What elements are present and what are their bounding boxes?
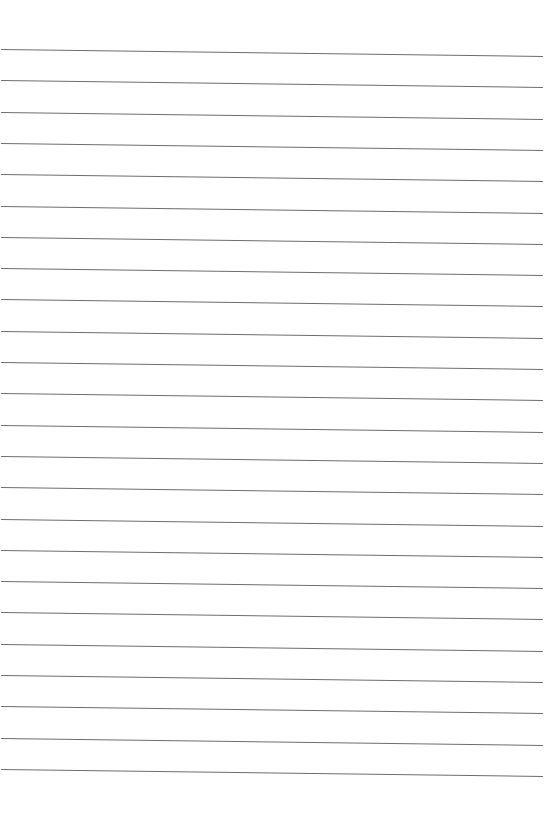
ruled-line [1,299,543,307]
ruled-line [1,706,543,714]
lined-paper-page [0,0,544,834]
ruled-line [1,456,543,464]
ruled-line [1,675,543,683]
ruled-line [1,581,543,589]
ruled-line [1,393,543,401]
ruled-line [1,112,543,120]
ruled-line [1,80,543,88]
ruled-line [1,206,543,214]
ruled-line [1,143,543,151]
ruled-line [1,174,543,182]
ruled-line [1,268,543,276]
ruled-line [1,612,543,620]
ruled-line [1,49,543,57]
ruled-line [1,237,543,245]
ruled-line [1,738,543,746]
ruled-line [1,331,543,339]
ruled-line [1,550,543,558]
ruled-line [1,487,543,495]
ruled-line [1,769,543,777]
ruled-line [1,425,543,433]
ruled-line [1,362,543,370]
ruled-line [1,644,543,652]
ruled-line [1,519,543,527]
